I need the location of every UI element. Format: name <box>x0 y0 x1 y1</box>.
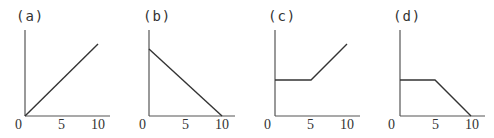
panel-d: (d) 0 5 10 <box>370 0 494 138</box>
x-tick-0: 0 <box>15 117 22 133</box>
x-tick-0: 0 <box>139 117 146 133</box>
x-tick-5: 5 <box>432 117 439 133</box>
panel-c: (c) 0 5 10 <box>250 0 374 138</box>
x-tick-10: 10 <box>340 117 354 133</box>
panel-b: (b) 0 5 10 <box>125 0 249 138</box>
x-tick-10: 10 <box>465 117 479 133</box>
x-tick-5: 5 <box>58 117 65 133</box>
x-tick-10: 10 <box>91 117 105 133</box>
panel-a: (a) 0 5 10 <box>0 0 124 138</box>
x-tick-10: 10 <box>215 117 229 133</box>
x-tick-5: 5 <box>307 117 314 133</box>
x-tick-5: 5 <box>182 117 189 133</box>
x-tick-0: 0 <box>264 117 271 133</box>
x-tick-0: 0 <box>388 117 395 133</box>
